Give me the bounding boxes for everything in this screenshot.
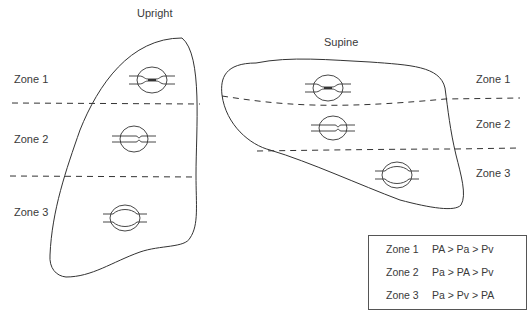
- legend-zone-label: Zone 3: [386, 289, 429, 301]
- pressure-legend: Zone 1 PA > Pa > Pv Zone 2 Pa > PA > Pv …: [368, 235, 527, 310]
- supine-zone-1-label: Zone 1: [476, 73, 510, 85]
- supine-zone-3-label: Zone 3: [476, 167, 510, 179]
- upright-zone-3-label: Zone 3: [14, 206, 48, 218]
- supine-zone-1-2-boundary: [222, 96, 520, 105]
- upright-zone-1-label: Zone 1: [14, 73, 48, 85]
- upright-zone-2-label: Zone 2: [14, 133, 48, 145]
- upright-zone-1-vessel-icon: [129, 67, 175, 93]
- legend-row-zone-3: Zone 3 Pa > Pv > PA: [386, 289, 494, 301]
- supine-lung-outline: [222, 59, 464, 209]
- legend-row-zone-2: Zone 2 Pa > PA > Pv: [386, 266, 494, 278]
- legend-zone-label: Zone 2: [386, 266, 429, 278]
- supine-zone-2-label: Zone 2: [476, 118, 510, 130]
- legend-pressure-relation: Pa > PA > Pv: [432, 266, 494, 278]
- supine-zone-3-vessel-icon: [375, 162, 419, 188]
- upright-zone-2-3-boundary: [10, 176, 196, 177]
- legend-row-zone-1: Zone 1 PA > Pa > Pv: [386, 243, 494, 255]
- upright-zone-1-2-boundary: [12, 103, 200, 104]
- supine-zone-2-vessel-icon: [311, 116, 355, 140]
- legend-pressure-relation: Pa > Pv > PA: [432, 289, 494, 301]
- upright-title: Upright: [137, 7, 172, 19]
- supine-zone-1-vessel-icon: [305, 75, 351, 101]
- supine-zone-2-3-boundary: [257, 148, 520, 151]
- upright-lung-outline: [50, 38, 197, 277]
- upright-zone-3-vessel-icon: [103, 205, 147, 231]
- legend-zone-label: Zone 1: [386, 243, 429, 255]
- legend-pressure-relation: PA > Pa > Pv: [432, 243, 494, 255]
- supine-title: Supine: [324, 36, 358, 48]
- upright-zone-2-vessel-icon: [112, 126, 156, 152]
